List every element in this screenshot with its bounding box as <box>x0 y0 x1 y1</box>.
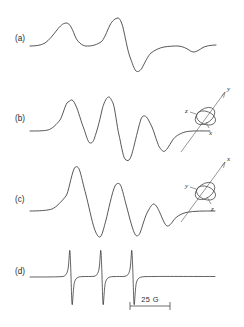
spectrum-trace-a <box>30 18 216 72</box>
diagram-top-z-arrow <box>190 112 196 114</box>
diagram-bottom-label-z: z <box>210 205 214 213</box>
diagram-top-label-y: y <box>226 85 231 93</box>
spectrum-trace-d <box>30 251 215 305</box>
orientation-diagram-bottom: x y z <box>181 155 231 222</box>
orientation-diagram-top: y z x <box>181 85 231 152</box>
diagram-bottom-label-x: x <box>226 155 231 163</box>
diagram-bottom-axis-line <box>181 162 225 222</box>
scale-bar: 25 G <box>130 295 170 310</box>
diagram-bottom-z-arrow <box>207 197 211 204</box>
diagram-bottom-label-y: y <box>184 182 189 190</box>
scale-bar-label: 25 G <box>141 295 159 304</box>
diagram-top-label-x: x <box>208 129 213 137</box>
spectrum-trace-b <box>30 97 210 161</box>
panel-label-a: (a) <box>15 34 25 43</box>
panel-b: (b) <box>15 97 210 161</box>
panel-label-c: (c) <box>15 195 25 204</box>
diagram-top-axis-line <box>181 92 225 152</box>
panel-d: (d) <box>15 251 215 305</box>
panel-a: (a) <box>15 18 216 72</box>
spectra-figure: (a) (b) (c) (d) 25 G y <box>0 0 244 327</box>
diagram-bottom-ellipse-b <box>194 183 217 203</box>
spectrum-trace-c <box>30 167 215 237</box>
diagram-top-label-z: z <box>184 107 188 115</box>
figure-container: (a) (b) (c) (d) 25 G y <box>0 0 244 327</box>
diagram-bottom-y-arrow <box>190 187 196 189</box>
panel-label-b: (b) <box>15 114 25 123</box>
panel-c: (c) <box>15 167 215 237</box>
panel-label-d: (d) <box>15 267 25 276</box>
